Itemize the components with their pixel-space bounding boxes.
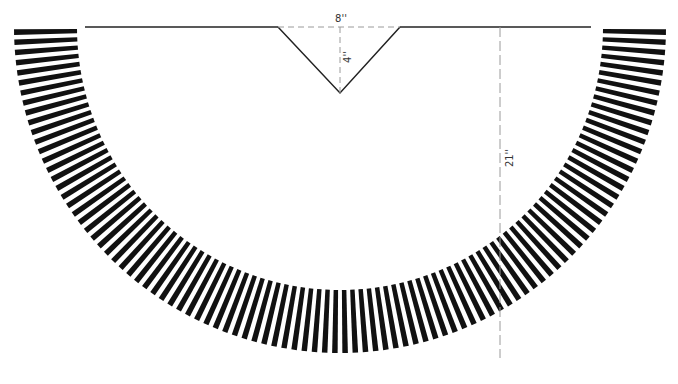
hem-stripe [358, 289, 368, 352]
hem-stripe [332, 290, 338, 353]
depth-label: 4'' [342, 51, 353, 63]
hem-stripe [312, 289, 322, 352]
hem-stripe [14, 37, 77, 45]
hem-stripe [342, 290, 348, 353]
hem-stripe [602, 45, 665, 55]
hem-stripe [15, 45, 78, 55]
v-notch [278, 27, 400, 93]
hem-stripe [603, 29, 666, 35]
length-label: 21'' [504, 149, 515, 167]
hem-stripe [350, 290, 358, 353]
hem-stripe [603, 37, 666, 45]
hem-stripe [322, 290, 330, 353]
hem-stripe [14, 29, 77, 35]
width-label: 8'' [335, 13, 347, 24]
skirt-pattern-diagram: 8'' 4'' 21'' [0, 0, 678, 384]
